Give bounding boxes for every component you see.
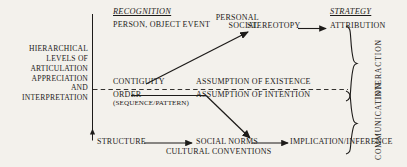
node-attribution: ATTRIBUTION [330,22,386,30]
node-assumption-of-existence: ASSUMPTION OF EXISTENCE [196,78,311,86]
node-order-subtitle: (SEQUENCE/PATTERN) [113,100,189,108]
node-person-object-event: PERSON, OBJECT EVENT [113,21,210,29]
node-assumption-of-intention: ASSUMPTION OF INTENTION [196,91,310,99]
node-structure: STRUCTURE [97,138,146,146]
node-cultural-conventions: CULTURAL CONVENTIONS [166,148,272,156]
hierarchical-levels-label: HIERARCHICAL LEVELS OF ARTICULATION APPR… [4,44,88,103]
heading-strategy: STRATEGY [330,8,371,17]
node-social-norms: SOCIAL NORMS [196,138,258,146]
heading-recognition: RECOGNITION [113,8,171,17]
brace-label-communication: COMMUNICATION [374,83,383,160]
vertical-axis-arrowhead [90,129,95,135]
hierarchical-levels-diagram: HIERARCHICAL LEVELS OF ARTICULATION APPR… [0,0,407,167]
node-contiguity: CONTIGUITY [113,78,165,86]
order-to-social-norms-arrow [206,96,250,139]
node-stereotopy: STEREOTOPY [247,22,300,30]
